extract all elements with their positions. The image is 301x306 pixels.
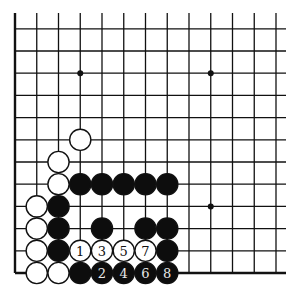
black-stone-icon [135,174,156,195]
black-stone [48,196,69,217]
white-stone [48,174,69,195]
white-stone-icon [26,262,47,283]
black-stone [70,262,91,283]
star-point-icon [77,70,83,76]
black-stone-move-2: 2 [91,262,112,283]
black-stone-icon [70,174,91,195]
white-stone [26,218,47,239]
white-stone [48,151,69,172]
black-stone-move-8: 8 [157,262,178,283]
black-stone [113,174,134,195]
black-stone [91,174,112,195]
go-board: 24681357 [0,0,301,306]
move-number-label: 2 [98,266,106,281]
white-stone-icon [26,196,47,217]
black-stone [91,218,112,239]
white-stone-icon [70,129,91,150]
white-stone-icon [26,240,47,261]
black-stone-icon [135,218,156,239]
black-stone-icon [48,218,69,239]
move-number-label: 8 [163,266,171,281]
black-stone [157,218,178,239]
black-stone [135,174,156,195]
white-stone-icon [48,262,69,283]
black-stone-icon [70,262,91,283]
white-stone-move-1: 1 [70,240,91,261]
white-stone-move-5: 5 [113,240,134,261]
white-stone-icon [26,218,47,239]
black-stone-icon [113,174,134,195]
black-stone-icon [48,196,69,217]
black-stone-icon [48,240,69,261]
white-stone-icon [48,151,69,172]
move-number-label: 5 [120,244,128,259]
star-point-icon [208,70,214,76]
white-stone [26,196,47,217]
move-number-label: 4 [120,266,128,281]
black-stone [48,240,69,261]
black-stone-icon [157,218,178,239]
black-stone [157,240,178,261]
black-stone-icon [157,174,178,195]
star-point-icon [208,203,214,209]
white-stone [26,240,47,261]
black-stone-move-4: 4 [113,262,134,283]
move-number-label: 6 [141,266,149,281]
black-stone-move-6: 6 [135,262,156,283]
move-number-label: 1 [76,244,84,259]
black-stone-icon [91,218,112,239]
black-stone [70,174,91,195]
white-stone [26,262,47,283]
move-number-label: 7 [141,244,149,259]
move-number-label: 3 [98,244,106,259]
white-stone-icon [48,174,69,195]
white-stone [48,262,69,283]
white-stone-move-7: 7 [135,240,156,261]
black-stone-icon [91,174,112,195]
white-stone-move-3: 3 [91,240,112,261]
black-stone [135,218,156,239]
white-stone [70,129,91,150]
black-stone [48,218,69,239]
black-stone-icon [157,240,178,261]
black-stone [157,174,178,195]
